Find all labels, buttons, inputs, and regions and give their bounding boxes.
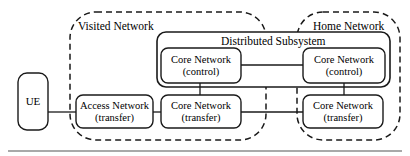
node-home-core-network-transfer-box <box>303 95 383 128</box>
node-access-network-transfer-box <box>76 95 153 128</box>
distributed-subsystem-title: Distributed Subsystem <box>221 35 325 47</box>
node-visited-core-network-transfer-box <box>161 95 241 128</box>
node-visited-core-network-control-box <box>161 48 241 83</box>
node-ue-box <box>18 73 48 130</box>
node-home-core-network-control-box <box>303 48 385 83</box>
zone-title-visited-network: Visited Network <box>78 20 154 32</box>
zone-title-home-network: Home Network <box>313 20 384 32</box>
network-architecture-diagram: Visited Network Home Network Distributed… <box>0 0 410 156</box>
